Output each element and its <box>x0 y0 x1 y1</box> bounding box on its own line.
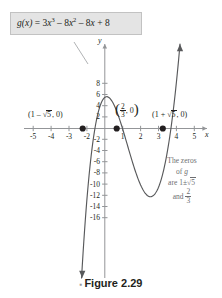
zero-label-middle: (23, 0) <box>115 103 139 119</box>
zero-point-right <box>160 125 166 131</box>
y-tick-label-neg14: -14 <box>82 203 100 211</box>
y-axis <box>102 44 107 278</box>
y-tick-label-6: 6 <box>88 91 100 99</box>
x-tick-label-1: 1 <box>119 133 126 141</box>
equation-term-3: – 8x <box>79 18 95 28</box>
y-tick-label-neg16: -16 <box>82 214 100 222</box>
zero-point-middle <box>114 125 120 131</box>
equation-lhs: g(x) <box>17 18 32 28</box>
zero-point-left <box>80 125 86 131</box>
caption-text: Figure 2.29 <box>84 277 142 289</box>
equation-callout: g(x) = 3x3 – 8x2 – 8x + 8 <box>10 12 142 35</box>
x-tick-label-neg4: -4 <box>47 133 56 141</box>
y-tick-label-4: 4 <box>88 102 100 110</box>
fraction-two-thirds: 23 <box>120 103 126 119</box>
note-line-1: The zeros <box>150 156 214 167</box>
x-tick-label-neg5: -5 <box>29 133 38 141</box>
y-axis-label: y <box>98 37 102 45</box>
note-line-4: and 23 <box>150 189 214 205</box>
x-axis-label: x <box>205 131 209 139</box>
x-tick-label-neg3: -3 <box>65 133 74 141</box>
figure-container: g(x) = 3x3 – 8x2 – 8x + 8 y x -5 -4 -3 -… <box>0 0 222 298</box>
caption-bullet-icon: ▪ <box>80 280 83 289</box>
y-tick-label-2: 2 <box>88 113 100 121</box>
equation-text: g(x) = 3x3 – 8x2 – 8x + 8 <box>17 18 110 28</box>
y-tick-label-neg4: -4 <box>86 147 100 155</box>
x-tick-label-2: 2 <box>137 133 144 141</box>
zero-label-right: (1 + √5, 0) <box>152 110 187 119</box>
callout-leader-line <box>74 42 88 64</box>
y-tick-label-neg6: -6 <box>86 158 100 166</box>
y-tick-label-neg12: -12 <box>82 192 100 200</box>
equation-equals: = <box>35 18 40 28</box>
figure-caption: ▪Figure 2.29 <box>0 277 222 289</box>
x-tick-label-3: 3 <box>155 133 162 141</box>
equation-term-2: – 8x2 <box>57 18 76 28</box>
graph-canvas <box>0 0 222 298</box>
note-line-3: are 1±√5 <box>150 177 214 189</box>
y-tick-label-neg10: -10 <box>82 181 100 189</box>
zero-label-left: (1 – √5, 0) <box>28 110 63 119</box>
fraction-two-thirds-note: 23 <box>185 188 191 204</box>
equation-term-1: 3x3 <box>42 18 54 28</box>
y-tick-label-8: 8 <box>88 80 100 88</box>
note-line-2: of g <box>150 167 214 178</box>
equation-term-4: + 8 <box>97 18 109 28</box>
zeros-note: The zeros of g are 1±√5 and 23 <box>150 156 214 205</box>
y-tick-label-neg8: -8 <box>86 169 100 177</box>
x-tick-label-5: 5 <box>191 133 198 141</box>
y-tick-label-neg2: -2 <box>86 136 100 144</box>
x-tick-label-4: 4 <box>173 133 180 141</box>
